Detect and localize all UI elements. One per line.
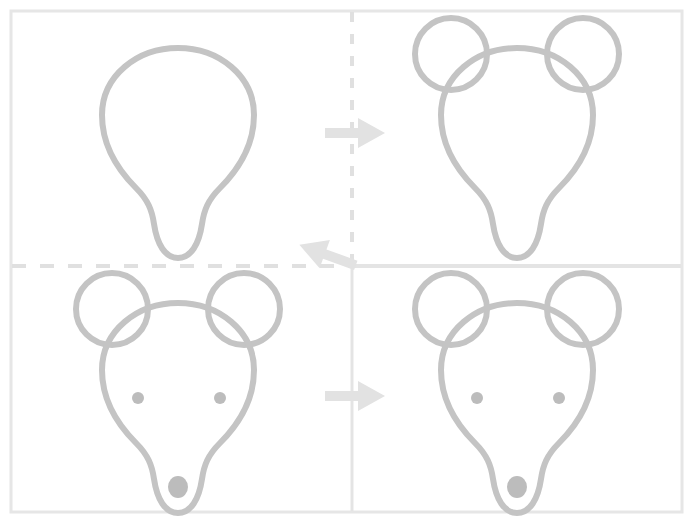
tutorial-illustration: How to Draw a Mouse Head - Step by Step … bbox=[0, 0, 695, 524]
drawing-tutorial-svg bbox=[0, 0, 695, 524]
